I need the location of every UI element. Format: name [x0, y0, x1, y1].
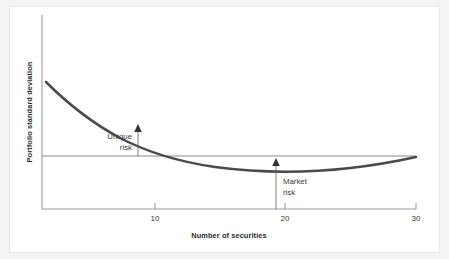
x-tick-label-10: 10: [151, 214, 160, 223]
x-axis-title: Number of securities: [191, 231, 267, 240]
market-risk-arrowhead-icon: [272, 158, 280, 166]
y-axis-title: Portfolio standard deviation: [25, 61, 34, 162]
x-tick-label-30: 30: [412, 214, 421, 223]
chart-figure-panel: Unique risk Market risk 10 20 30 Number …: [9, 6, 440, 253]
unique-risk-arrowhead-icon: [134, 124, 142, 132]
diversification-chart: Unique risk Market risk 10 20 30 Number …: [10, 7, 439, 252]
market-risk-label-line2: risk: [283, 188, 295, 197]
unique-risk-label-line1: Unique: [107, 132, 132, 141]
market-risk-label-line1: Market: [283, 177, 308, 186]
portfolio-risk-curve: [46, 82, 416, 172]
x-tick-label-20: 20: [281, 214, 290, 223]
unique-risk-label-line2: risk: [120, 143, 132, 152]
